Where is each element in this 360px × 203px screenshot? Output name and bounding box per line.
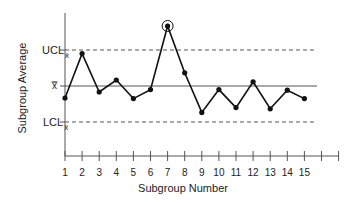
reference-lines bbox=[60, 50, 317, 122]
x-tick-label: 9 bbox=[199, 167, 205, 178]
data-point bbox=[62, 95, 67, 100]
x-tick-label: 10 bbox=[213, 167, 225, 178]
x-tick-label: 13 bbox=[265, 167, 277, 178]
x-tick-label: 3 bbox=[96, 167, 102, 178]
data-point bbox=[97, 89, 102, 94]
data-series bbox=[62, 21, 307, 116]
x-tick-label: 5 bbox=[131, 167, 137, 178]
x-tick-label: 15 bbox=[299, 167, 311, 178]
x-tick-label: 8 bbox=[182, 167, 188, 178]
x-tick-label: 11 bbox=[231, 167, 242, 178]
center-line-label: x̿ bbox=[51, 80, 57, 91]
data-point bbox=[80, 51, 85, 56]
data-point bbox=[182, 70, 187, 75]
x-tick-label: 2 bbox=[79, 167, 85, 178]
series-line bbox=[65, 26, 304, 112]
x-axis-label: Subgroup Number bbox=[138, 182, 228, 194]
control-chart: 123456789101112131415 UCLx̄ x̿ LCLx̄ Sub… bbox=[0, 0, 360, 203]
data-point bbox=[285, 88, 290, 93]
data-point bbox=[302, 96, 307, 101]
data-point bbox=[233, 105, 238, 110]
x-tick-label: 1 bbox=[62, 167, 68, 178]
data-point bbox=[251, 79, 256, 84]
x-tick-label: 7 bbox=[165, 167, 171, 178]
data-point bbox=[114, 77, 119, 82]
data-point bbox=[131, 96, 136, 101]
x-tick-label: 12 bbox=[248, 167, 260, 178]
x-tick-label: 6 bbox=[148, 167, 154, 178]
x-tick-label: 14 bbox=[282, 167, 294, 178]
y-axis-label: Subgroup Average bbox=[16, 43, 28, 134]
x-tick-label: 4 bbox=[114, 167, 120, 178]
data-point bbox=[148, 87, 153, 92]
data-point bbox=[216, 87, 221, 92]
lcl-label: LCLx̄ bbox=[43, 116, 68, 132]
data-point bbox=[199, 110, 204, 115]
data-point bbox=[165, 23, 170, 28]
data-point bbox=[268, 106, 273, 111]
